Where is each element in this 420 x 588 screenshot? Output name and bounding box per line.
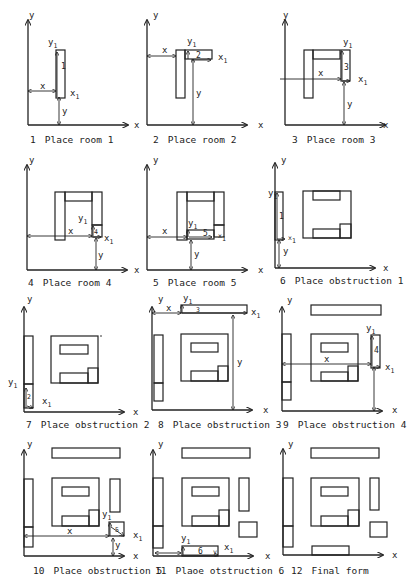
caption-text: Place obstruction 2 [41,419,150,430]
dimension-label: 1 [61,62,66,71]
subscript: 1 [292,237,296,245]
panel-caption: 6Place obstruction 1 [280,275,404,286]
subscript: 1 [75,93,79,101]
dimension-label: 2 [27,393,31,401]
dimension-label: y [281,155,287,165]
caption-text: Place room 3 [307,134,376,145]
subscript: 1 [229,547,233,555]
dimension-label: y [158,439,164,449]
dimension-label: y [62,106,68,116]
dimension-label: x [258,265,264,275]
dimension-label: 1 [279,212,284,221]
caption-text: Place obstruction 5 [53,565,162,576]
dimension-label: x [258,120,264,130]
dimension-label: 4 [94,228,98,236]
dimension-label: y [283,246,289,256]
caption-number: 1 [30,134,36,145]
dimension-label: x [324,354,330,364]
dimension-label: y [29,155,35,165]
subscript: 1 [193,223,197,231]
subscript: 1 [138,535,142,543]
dimension-label: x [265,551,271,561]
dimension-label: y [347,99,353,109]
dimension-label: x [162,45,168,55]
dimension-label: 3 [344,63,349,72]
subscript: 1 [47,401,51,409]
subscript: 1 [53,42,57,50]
caption-text: Place room 1 [45,134,114,145]
subscript: 1 [256,312,260,320]
caption-text: Place room 5 [168,277,237,288]
caption-number: 4 [28,277,34,288]
dimension-label: y [115,540,121,550]
subscript: 1 [188,298,192,306]
dimension-label: x [392,405,398,415]
dimension-label: x [67,526,73,536]
caption-text: Place obstruction 1 [295,275,404,286]
caption-number: 3 [292,134,298,145]
subscript: 1 [363,79,367,87]
dimension-label: y [288,439,294,449]
room-placement-diagram: xyy11x1yx1Place room 1xyy12x1yx2Place ro… [0,0,420,588]
panel-caption: 9Place obstruction 4 [283,419,407,430]
caption-text: Place obstruction 4 [298,419,407,430]
caption-number: 6 [280,275,286,286]
dimension-label: x [40,81,46,91]
dimension-label: y [158,294,164,304]
dimension-label: 5 [115,526,119,534]
subscript: 1 [390,367,394,375]
dimension-label: x [392,550,398,560]
caption-text: Place room 2 [168,134,237,145]
subscript: 1 [13,382,17,390]
dimension-label: y [27,439,33,449]
subscript: 1 [186,538,190,546]
dimension-label: 4 [374,346,379,355]
dimension-label: x [162,226,168,236]
dimension-label: y [237,357,243,367]
dimension-label: y [27,294,33,304]
caption-number: 10 [33,565,45,576]
dimension-label: 6 [198,547,203,556]
dimension-label: y [194,249,200,259]
dimension-label: x [68,226,74,236]
caption-number: 2 [153,134,159,145]
dimension-label: y [153,10,159,20]
caption-number: 12 [291,565,302,576]
subscript: 1 [223,57,227,65]
caption-number: 8 [158,419,164,430]
dimension-label: x [383,120,389,130]
subscript: 1 [348,42,352,50]
subscript: 1 [192,41,196,49]
panel-caption: 8Place obstruction 3 [158,419,281,430]
dimension-label: x [263,405,269,415]
dimension-label: 2 [196,51,201,60]
dimension-label: x [166,303,172,313]
dimension-label: x [318,68,324,78]
dimension-label: y [283,10,289,20]
subscript: 1 [371,328,375,336]
subscript: 1 [107,514,111,522]
dimension-label: y [29,10,35,20]
dimension-label: 3 [196,306,200,314]
subscript: 1 [222,235,226,243]
subscript: 1 [109,238,113,246]
dimension-label: x [134,120,140,130]
dimension-label: y [213,548,217,556]
subscript: 1 [273,193,277,201]
dimension-label: y [287,295,293,305]
dimension-label: 5 [203,229,208,238]
caption-number: 9 [283,419,289,430]
dimension-label: x [383,263,389,273]
caption-number: 5 [153,277,159,288]
caption-text: Plaoe otstruction 6 [175,565,284,576]
dimension-label: x [133,551,139,561]
panel-caption: 7Place obstruction 2 [26,419,149,430]
subscript: 1 [83,218,87,226]
dimension-label: y [98,250,104,260]
caption-text: Place obstruction 3 [173,419,282,430]
dimension-label: x [134,265,140,275]
background [0,0,420,588]
dimension-label: y [153,155,159,165]
dimension-label: y [196,88,202,98]
caption-number: 7 [26,419,32,430]
